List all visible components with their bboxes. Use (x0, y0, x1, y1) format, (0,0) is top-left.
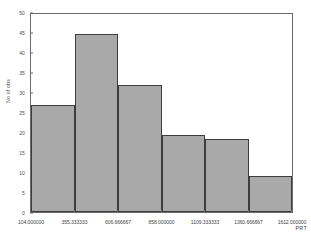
x-axis-tick-mark (117, 210, 118, 213)
histogram-bar (118, 85, 162, 212)
x-axis-tick-mark (291, 210, 292, 213)
y-axis-tick-label: 5 (22, 190, 25, 196)
y-axis-tick-label: 30 (19, 90, 25, 96)
y-axis-tick-label: 50 (19, 10, 25, 16)
histogram-bar (205, 139, 249, 212)
x-axis-tick-mark (204, 210, 205, 213)
x-axis-tick-mark (74, 210, 75, 213)
x-axis-tick-marks (30, 209, 293, 213)
x-axis-tick-label: 1360.666667 (234, 219, 263, 225)
y-axis-tick-label: 20 (19, 130, 25, 136)
y-axis-tick-label: 0 (22, 210, 25, 216)
y-axis-tick-label: 35 (19, 70, 25, 76)
x-axis-tick-mark (161, 210, 162, 213)
y-axis-tick-label: 15 (19, 150, 25, 156)
histogram-bar (75, 34, 119, 212)
y-axis-tick-label: 45 (19, 30, 25, 36)
x-axis-tick-mark (248, 210, 249, 213)
y-axis-tick-label: 25 (19, 110, 25, 116)
histogram-figure: No of obs 05101520253035404550 104.00000… (0, 0, 311, 239)
x-axis-tick-label: 104.000000 (18, 219, 44, 225)
histogram-bar (31, 105, 75, 212)
x-axis-tick-label: 606.666667 (105, 219, 131, 225)
x-axis-tick-label: 355.333333 (62, 219, 88, 225)
x-axis-tick-labels: 104.000000355.333333606.666667858.000000… (0, 219, 311, 231)
corner-annotation: PRT (295, 225, 307, 231)
histogram-bar (162, 135, 206, 212)
x-axis-tick-label: 858.000000 (149, 219, 175, 225)
x-axis-tick-mark (30, 210, 31, 213)
histogram-bar (249, 176, 293, 212)
y-axis-tick-labels: 05101520253035404550 (0, 13, 30, 213)
y-axis-tick-label: 40 (19, 50, 25, 56)
x-axis-tick-label: 1109.333333 (191, 219, 219, 225)
y-axis-tick-label: 10 (19, 170, 25, 176)
histogram-bars (31, 14, 292, 212)
